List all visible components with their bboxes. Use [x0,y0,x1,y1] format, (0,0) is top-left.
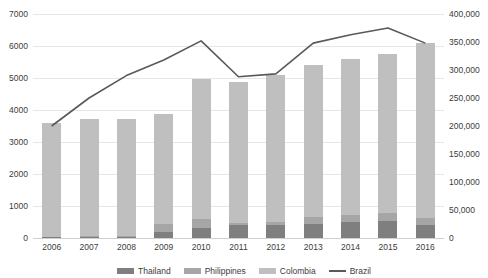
right-axis-tick-label: 300,000 [449,65,488,75]
left-axis-tick-label: 1000 [0,201,28,211]
left-axis-tick-label: 7000 [0,9,28,19]
right-axis-tick-label: 50,000 [449,205,488,215]
plot-area [33,14,444,238]
brazil-line-path [52,28,426,126]
combo-chart: 01000200030004000500060007000 050,000100… [0,0,488,278]
legend-label: Philippines [205,266,246,276]
legend-label: Colombia [280,266,316,276]
right-axis-tick-label: 0 [449,233,488,243]
brazil-line-series [33,14,444,238]
left-axis-tick-label: 2000 [0,169,28,179]
legend-item-philippines[interactable]: Philippines [184,266,246,276]
x-axis-tick-label: 2009 [154,242,173,252]
x-axis-tick-label: 2006 [42,242,61,252]
left-axis-tick-label: 4000 [0,105,28,115]
legend-label: Brazil [350,266,371,276]
x-axis-tick-label: 2016 [416,242,435,252]
legend-item-thailand[interactable]: Thailand [117,266,171,276]
chart-legend: ThailandPhilippinesColombiaBrazil [0,266,488,276]
left-axis-tick-label: 3000 [0,137,28,147]
right-axis-tick-label: 150,000 [449,149,488,159]
square-swatch-light-icon [259,268,276,274]
right-axis-tick-label: 200,000 [449,121,488,131]
legend-item-brazil[interactable]: Brazil [329,266,371,276]
x-axis-tick-label: 2012 [266,242,285,252]
legend-label: Thailand [138,266,171,276]
right-axis-tick-label: 400,000 [449,9,488,19]
x-axis-tick-label: 2014 [341,242,360,252]
left-axis-tick-label: 6000 [0,41,28,51]
line-swatch-icon [329,270,346,272]
x-axis-tick-label: 2010 [192,242,211,252]
right-axis-tick-label: 350,000 [449,37,488,47]
x-axis-tick-label: 2007 [80,242,99,252]
x-axis-tick-label: 2011 [229,242,247,252]
x-axis-tick-label: 2008 [117,242,136,252]
square-swatch-medium-icon [184,268,201,274]
left-axis-tick-label: 5000 [0,73,28,83]
right-axis-tick-label: 250,000 [449,93,488,103]
x-axis-tick-label: 2013 [304,242,323,252]
square-swatch-dark-icon [117,268,134,274]
x-axis-tick-label: 2015 [378,242,397,252]
legend-item-colombia[interactable]: Colombia [259,266,316,276]
gridline [33,238,444,239]
right-axis-tick-label: 100,000 [449,177,488,187]
left-axis-tick-label: 0 [0,233,28,243]
